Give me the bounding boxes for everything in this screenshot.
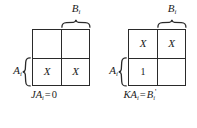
kmap-j-cell-top-left	[33, 30, 61, 58]
kmap-k-cell-bottom-right	[157, 58, 185, 86]
kmap-j-cell-bottom-right-value: X	[72, 66, 79, 77]
kmap-k-top-brace	[157, 19, 187, 28]
kmap-k-cell-top-right: X	[157, 30, 185, 58]
kmap-j-side-brace	[22, 57, 31, 87]
kmap-k-cell-bottom-left-value: 1	[141, 67, 146, 77]
kmap-k-cell-top-left-value: X	[140, 38, 147, 49]
kmap-j-top-variable-label: Bi	[61, 2, 91, 14]
kmap-k-top-variable-label: Bi	[157, 2, 187, 14]
kmap-j-cell-bottom-right: X	[61, 58, 89, 86]
kmap-j-top-variable-subscript: i	[78, 8, 80, 15]
kmap-j-top-brace	[61, 19, 91, 28]
kmap-j-caption-rhs: 0	[52, 89, 57, 100]
kmap-k-grid: X X 1	[128, 29, 186, 86]
kmap-j: Bi Ai X X JAi=0	[0, 0, 88, 128]
kmap-k-side-variable-label: Ai	[102, 64, 118, 76]
kmap-j-grid: X X	[32, 29, 90, 86]
kmap-k-caption-rhs-prime: '	[155, 88, 156, 97]
kmap-j-caption-lhs: JA	[31, 89, 42, 100]
kmap-k: Bi Ai X X 1 KAi=Bi'	[96, 0, 184, 128]
kmap-j-caption-operator: =	[44, 89, 52, 100]
kmap-k-cell-top-left: X	[129, 30, 157, 58]
kmap-j-caption: JAi=0	[0, 89, 88, 100]
kmap-k-caption-operator: =	[139, 89, 147, 100]
kmap-j-cell-bottom-left-value: X	[44, 66, 51, 77]
kmap-k-caption-lhs: KA	[124, 89, 137, 100]
kmap-j-cell-top-right	[61, 30, 89, 58]
kmap-j-cell-bottom-left: X	[33, 58, 61, 86]
karnaugh-map-figure: Bi Ai X X JAi=0 Bi	[0, 0, 197, 128]
kmap-k-side-brace	[118, 57, 127, 87]
kmap-k-cell-bottom-left: 1	[129, 58, 157, 86]
kmap-j-side-variable-label: Ai	[6, 64, 22, 76]
kmap-k-caption: KAi=Bi'	[96, 89, 184, 100]
kmap-k-cell-top-right-value: X	[168, 38, 175, 49]
kmap-k-top-variable-subscript: i	[174, 8, 176, 15]
